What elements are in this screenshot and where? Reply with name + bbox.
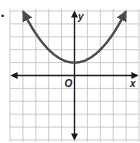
origin-label: O — [65, 78, 73, 89]
problem-bullet: • — [1, 11, 4, 21]
y-axis-label: y — [77, 11, 84, 22]
x-axis-label: x — [129, 78, 136, 89]
parabola-graph: y x O • — [0, 0, 140, 143]
